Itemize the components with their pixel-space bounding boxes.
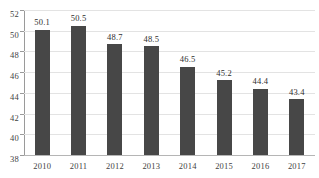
bar-value-label: 43.4 [289, 88, 305, 97]
x-tick-label: 2012 [106, 162, 124, 171]
bar-group: 48.7 [97, 10, 133, 155]
x-tick-label: 2016 [252, 162, 270, 171]
y-tick-label-text: 38 [1, 155, 19, 164]
bar [71, 26, 86, 155]
y-tick-label-text: 40 [1, 134, 19, 143]
bar-value-label: 48.7 [107, 33, 123, 42]
bar [180, 67, 195, 155]
bar-group: 44.4 [242, 10, 278, 155]
bar [217, 80, 232, 155]
bar-value-label: 50.1 [34, 18, 50, 27]
x-tick-label: 2011 [70, 162, 88, 171]
x-tick-label: 2017 [288, 162, 306, 171]
bar [289, 99, 304, 155]
y-tick-label-text: 48 [1, 51, 19, 60]
y-tick-label-text: 46 [1, 72, 19, 81]
bar-value-label: 50.5 [71, 14, 87, 23]
x-tick-label: 2013 [142, 162, 160, 171]
bar [35, 30, 50, 155]
bar [253, 89, 268, 155]
x-tick-label: 2010 [33, 162, 51, 171]
x-tick-label: 2015 [215, 162, 233, 171]
axis-baseline [24, 155, 315, 156]
plot-area: 50.150.548.748.546.545.244.443.4 [24, 10, 315, 155]
y-tick-label-text: 50 [1, 31, 19, 40]
bar-group: 46.5 [170, 10, 206, 155]
bar-group: 43.4 [279, 10, 315, 155]
bar-value-label: 44.4 [253, 77, 269, 86]
bar-value-label: 48.5 [143, 35, 159, 44]
x-tick-label: 2014 [179, 162, 197, 171]
bar [107, 44, 122, 155]
bar-group: 50.5 [60, 10, 96, 155]
bar-value-label: 45.2 [216, 69, 232, 78]
y-tick-label-text: 44 [1, 93, 19, 102]
bar-value-label: 46.5 [180, 55, 196, 64]
bar-group: 50.1 [24, 10, 60, 155]
bar [144, 46, 159, 155]
y-tick-label-text: 52 [1, 10, 19, 19]
bar-group: 48.5 [133, 10, 169, 155]
bar-group: 45.2 [206, 10, 242, 155]
y-tick-label-text: 42 [1, 114, 19, 123]
bar-chart: 3840424446485052 50.150.548.748.546.545.… [0, 0, 319, 178]
